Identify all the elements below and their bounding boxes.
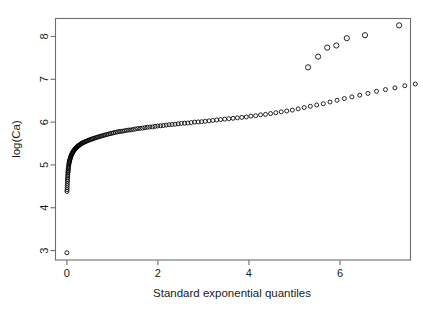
tail-data-point xyxy=(316,54,321,59)
data-point xyxy=(269,112,273,116)
qq-plot-container: 0246 345678 Standard exponential quantil… xyxy=(0,0,423,309)
data-point xyxy=(328,100,332,104)
data-point xyxy=(259,113,263,117)
data-point xyxy=(358,93,362,97)
data-point xyxy=(240,115,244,119)
data-point xyxy=(290,108,294,112)
data-point xyxy=(274,111,278,115)
y-tick-label-3: 3 xyxy=(39,248,51,254)
data-point xyxy=(264,112,268,116)
tail-data-point xyxy=(334,43,339,48)
data-point xyxy=(366,91,370,95)
data-point xyxy=(215,118,219,122)
x-tick-label-6: 6 xyxy=(337,267,343,279)
tail-data-point xyxy=(325,45,330,50)
data-point xyxy=(335,98,339,102)
data-point xyxy=(231,116,235,120)
data-point xyxy=(249,114,253,118)
y-axis-ticks xyxy=(51,36,56,250)
y-axis-tick-labels: 345678 xyxy=(39,33,51,253)
data-point xyxy=(279,110,283,114)
y-axis-title: log(Ca) xyxy=(10,120,22,158)
data-point xyxy=(321,102,325,106)
qq-plot-svg: 0246 345678 Standard exponential quantil… xyxy=(0,0,423,309)
x-tick-label-2: 2 xyxy=(155,267,161,279)
data-point xyxy=(308,104,312,108)
y-tick-label-8: 8 xyxy=(39,33,51,39)
data-point xyxy=(302,106,306,110)
data-point xyxy=(383,88,387,92)
data-point xyxy=(413,82,417,86)
data-point xyxy=(227,117,231,121)
data-point xyxy=(235,116,239,120)
data-point xyxy=(65,251,69,255)
x-tick-label-0: 0 xyxy=(64,267,70,279)
y-tick-label-4: 4 xyxy=(39,205,51,211)
data-point xyxy=(342,97,346,101)
y-tick-label-7: 7 xyxy=(39,76,51,82)
data-point-series xyxy=(65,82,417,255)
data-point xyxy=(375,89,379,93)
data-point xyxy=(223,117,227,121)
x-axis-ticks xyxy=(67,260,340,265)
data-point xyxy=(315,103,319,107)
data-point xyxy=(403,84,407,88)
tail-data-point xyxy=(344,36,349,41)
data-point xyxy=(219,118,223,122)
plot-frame xyxy=(56,19,411,261)
x-axis-title: Standard exponential quantiles xyxy=(153,287,311,299)
data-point xyxy=(296,107,300,111)
tail-point-series xyxy=(306,23,402,70)
tail-data-point xyxy=(306,65,311,70)
data-point xyxy=(244,115,248,119)
y-tick-label-6: 6 xyxy=(39,119,51,125)
y-tick-label-5: 5 xyxy=(39,162,51,168)
data-point xyxy=(350,95,354,99)
data-point xyxy=(285,109,289,113)
tail-data-point xyxy=(362,33,367,38)
x-tick-label-4: 4 xyxy=(246,267,252,279)
data-point xyxy=(254,114,258,118)
tail-data-point xyxy=(397,23,402,28)
x-axis-tick-labels: 0246 xyxy=(64,267,343,279)
data-point xyxy=(393,86,397,90)
